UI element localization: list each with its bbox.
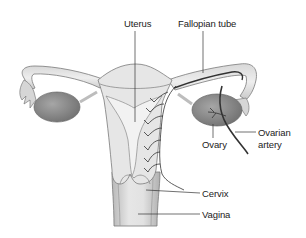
label-uterus: Uterus bbox=[124, 18, 151, 29]
label-cervix: Cervix bbox=[202, 188, 228, 199]
reproductive-system-diagram: Uterus Fallopian tube Ovary Ovarian arte… bbox=[0, 0, 306, 238]
label-vagina: Vagina bbox=[202, 209, 230, 220]
label-ovarian-artery: Ovarian artery bbox=[258, 127, 291, 151]
right-ovary bbox=[192, 94, 242, 126]
label-fallopian-tube: Fallopian tube bbox=[178, 18, 236, 29]
anatomy-illustration bbox=[0, 0, 306, 238]
label-ovary: Ovary bbox=[202, 139, 227, 150]
left-ovary bbox=[34, 92, 80, 122]
